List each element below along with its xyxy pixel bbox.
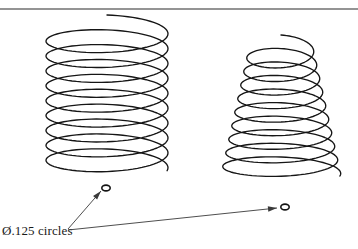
cylindrical-coil: [46, 15, 168, 172]
conical-coil-path: [223, 35, 341, 176]
leader-lines: [68, 191, 277, 230]
spring-coil-figure: Ø.125 circles: [0, 0, 358, 249]
cylindrical-coil-path: [46, 15, 168, 172]
wire-section-right: [281, 204, 289, 210]
technical-drawing-canvas: [0, 0, 358, 249]
leader-to-right-circle: [68, 208, 277, 230]
reference-circles: [102, 185, 289, 210]
leader-to-right-circle-arrowhead-icon: [268, 206, 277, 211]
conical-coil: [223, 35, 341, 176]
diameter-callout-label: Ø.125 circles: [2, 224, 73, 237]
wire-section-left: [102, 185, 110, 191]
